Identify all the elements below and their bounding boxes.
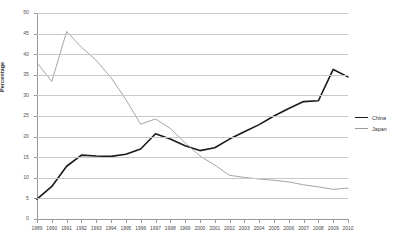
x-axis-tick-label: 1997 — [149, 226, 163, 231]
chart-legend: China Japan — [355, 112, 403, 134]
y-axis-tick-label: 0 — [3, 216, 29, 221]
gridline — [37, 178, 348, 179]
x-axis-tick-mark — [333, 219, 334, 223]
x-axis-tick-mark — [52, 219, 53, 223]
x-axis-tick-label: 1995 — [119, 226, 133, 231]
legend-item-japan[interactable]: Japan — [355, 123, 403, 134]
gridline — [37, 34, 348, 35]
x-axis-tick-label: 2000 — [193, 226, 207, 231]
gridline — [37, 157, 348, 158]
x-axis-tick-mark — [304, 219, 305, 223]
x-axis-tick-label: 1993 — [89, 226, 103, 231]
x-axis-tick-mark — [37, 219, 38, 223]
x-axis-tick-label: 1994 — [104, 226, 118, 231]
y-axis-tick-label: 50 — [3, 10, 29, 15]
x-axis-tick-mark — [289, 219, 290, 223]
gridline — [37, 75, 348, 76]
gridline — [37, 13, 348, 14]
plot-area — [37, 13, 348, 219]
x-axis-tick-label: 2005 — [267, 226, 281, 231]
x-axis-tick-mark — [200, 219, 201, 223]
x-axis-tick-label: 1996 — [134, 226, 148, 231]
x-axis-tick-mark — [259, 219, 260, 223]
x-axis-tick-mark — [348, 219, 349, 223]
x-axis-tick-label: 1998 — [163, 226, 177, 231]
x-axis-tick-mark — [318, 219, 319, 223]
y-axis-tick-label: 20 — [3, 134, 29, 139]
x-axis-tick-label: 2004 — [252, 226, 266, 231]
x-axis-tick-label: 1992 — [74, 226, 88, 231]
x-axis-tick-label: 1989 — [30, 226, 44, 231]
x-axis-tick-label: 2009 — [326, 226, 340, 231]
y-axis-tick-label: 30 — [3, 93, 29, 98]
x-axis-tick-mark — [141, 219, 142, 223]
gridline — [37, 95, 348, 96]
gridline — [37, 198, 348, 199]
x-axis-tick-mark — [215, 219, 216, 223]
legend-swatch-japan — [355, 128, 368, 129]
gridline — [37, 116, 348, 117]
legend-label-japan: Japan — [372, 126, 387, 132]
y-axis-tick-label: 40 — [3, 52, 29, 57]
x-axis-tick-mark — [126, 219, 127, 223]
series-line-japan — [37, 32, 348, 190]
y-axis-tick-label: 5 — [3, 196, 29, 201]
x-axis-tick-mark — [96, 219, 97, 223]
y-axis-tick-label: 25 — [3, 113, 29, 118]
y-axis-tick-label: 45 — [3, 31, 29, 36]
x-axis-line — [37, 219, 348, 220]
x-axis-tick-label: 2008 — [311, 226, 325, 231]
x-axis-tick-label: 2006 — [282, 226, 296, 231]
y-axis-tick-label: 35 — [3, 72, 29, 77]
x-axis-tick-mark — [81, 219, 82, 223]
x-axis-tick-mark — [230, 219, 231, 223]
x-axis-tick-label: 2003 — [237, 226, 251, 231]
x-axis-tick-label: 2010 — [341, 226, 355, 231]
x-axis-tick-label: 2007 — [297, 226, 311, 231]
x-axis-tick-label: 2002 — [223, 226, 237, 231]
x-axis-tick-mark — [67, 219, 68, 223]
legend-item-china[interactable]: China — [355, 112, 403, 123]
x-axis-tick-mark — [185, 219, 186, 223]
line-chart: Percentage 05101520253035404550 19891990… — [0, 0, 404, 245]
y-axis-tick-label: 10 — [3, 175, 29, 180]
x-axis-tick-label: 1990 — [45, 226, 59, 231]
gridline — [37, 137, 348, 138]
x-axis-tick-mark — [111, 219, 112, 223]
gridline — [37, 54, 348, 55]
series-line-china — [37, 69, 348, 199]
legend-label-china: China — [372, 115, 386, 121]
legend-swatch-china — [355, 117, 368, 119]
y-axis-tick-label: 15 — [3, 155, 29, 160]
x-axis-tick-mark — [274, 219, 275, 223]
x-axis-tick-mark — [170, 219, 171, 223]
x-axis-tick-mark — [156, 219, 157, 223]
x-axis-tick-mark — [244, 219, 245, 223]
x-axis-tick-label: 2001 — [208, 226, 222, 231]
x-axis-tick-label: 1991 — [60, 226, 74, 231]
x-axis-tick-label: 1999 — [178, 226, 192, 231]
